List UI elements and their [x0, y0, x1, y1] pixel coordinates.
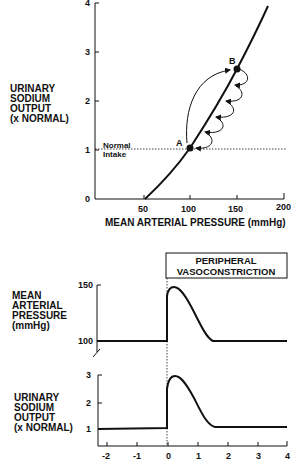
x-tick-label: 200 — [276, 202, 291, 212]
y-tick-label: 0 — [85, 194, 90, 204]
y-tick-label: 150 — [78, 280, 93, 290]
y-axis-label: (mmHg) — [12, 320, 50, 331]
x-tick-label: 150 — [228, 204, 243, 214]
renal-output-chart: 4 3 2 1 0 50 100 150 200 MEAN ARTERIAL P… — [10, 0, 291, 228]
point-a-label: A — [176, 138, 183, 148]
y-tick-label: 3 — [86, 370, 91, 380]
x-tick-label: 3 — [256, 451, 261, 461]
return-loop — [216, 102, 234, 117]
x-tick-label: 1 — [196, 451, 201, 461]
point-b-label: B — [229, 56, 236, 66]
x-tick-label: 50 — [138, 204, 148, 214]
return-loop — [226, 86, 242, 101]
x-tick-label: -1 — [133, 451, 141, 461]
box-label: PERIPHERAL — [195, 255, 256, 266]
y-tick-label: 1 — [86, 424, 91, 434]
sodium-output-chart: 3 2 1 -2 -1 0 1 2 3 4 URINARY SODIUM OUT… — [14, 370, 290, 461]
point-b-marker — [234, 66, 241, 73]
y-tick-label: 2 — [85, 96, 90, 106]
x-axis-label: MEAN ARTERIAL PRESSURE (mmHg) — [105, 217, 286, 228]
sodium-curve — [98, 376, 287, 429]
box-label: VASOCONSTRICTION — [177, 266, 276, 277]
y-tick-label: 4 — [85, 0, 90, 8]
y-tick-label: 1 — [85, 145, 90, 155]
normal-intake-label: Normal — [103, 141, 131, 150]
pressure-curve — [97, 287, 287, 341]
renal-output-curve — [145, 6, 268, 199]
x-tick-label: 0 — [166, 451, 171, 461]
y-tick-label: 3 — [85, 47, 90, 57]
x-tick-label: 100 — [181, 204, 196, 214]
y-tick-label: 2 — [86, 398, 91, 408]
x-tick-label: -2 — [102, 451, 110, 461]
y-axis-label: (x NORMAL) — [10, 113, 69, 124]
y-tick-label: 100 — [78, 336, 93, 346]
point-a-marker — [187, 145, 194, 152]
normal-intake-label: Intake — [103, 150, 127, 159]
x-tick-label: 4 — [285, 451, 290, 461]
figure: 4 3 2 1 0 50 100 150 200 MEAN ARTERIAL P… — [0, 0, 306, 463]
y-axis-label: (x NORMAL) — [14, 422, 73, 433]
x-tick-label: 2 — [226, 451, 231, 461]
